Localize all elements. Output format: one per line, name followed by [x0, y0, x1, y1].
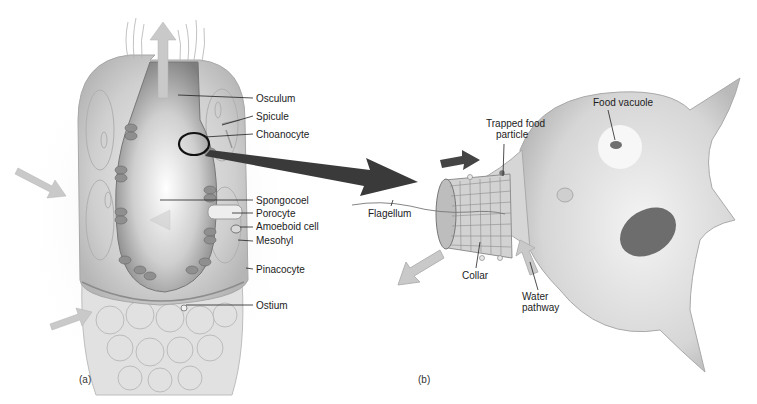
collar-structure [436, 171, 512, 261]
label-choanocyte: Choanocyte [256, 129, 309, 140]
label-collar: Collar [462, 270, 488, 281]
diagram-canvas [0, 0, 757, 404]
label-water-line2: pathway [522, 302, 559, 313]
label-amoeboid-cell: Amoeboid cell [256, 221, 319, 232]
label-mesohyl: Mesohyl [256, 235, 293, 246]
panel-label-a: (a) [79, 374, 91, 385]
label-water-line1: Water [522, 291, 559, 302]
choanocyte-cell [352, 78, 740, 372]
label-osculum: Osculum [256, 93, 295, 104]
food-vacuole-particle [610, 141, 622, 149]
water-in-arrow-dark [440, 150, 480, 170]
label-spicule: Spicule [256, 111, 289, 122]
label-spongocoel: Spongocoel [256, 195, 309, 206]
label-trapped-food-line1: Trapped food [486, 118, 545, 129]
panel-label-b: (b) [418, 374, 430, 385]
label-flagellum: Flagellum [368, 208, 411, 219]
sponge-diagram: Osculum Spicule Choanocyte Spongocoel Po… [0, 0, 757, 404]
label-trapped-food-particle: Trapped food particle [486, 118, 545, 140]
label-food-vacuole: Food vacuole [593, 97, 653, 108]
label-pinacocyte: Pinacocyte [256, 264, 305, 275]
label-ostium: Ostium [256, 300, 288, 311]
label-trapped-food-line2: particle [486, 129, 545, 140]
label-water-pathway: Water pathway [522, 291, 559, 313]
water-out-arrow [398, 250, 444, 285]
label-porocyte: Porocyte [256, 208, 295, 219]
